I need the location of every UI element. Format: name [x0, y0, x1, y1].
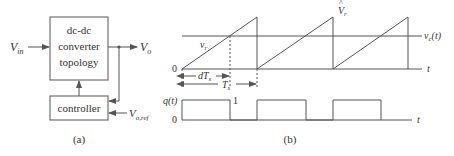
converter-label-line2: converter — [58, 40, 100, 52]
panel-a-block-diagram: dc-dc converter topology controller Vin … — [10, 17, 151, 146]
controller-label: controller — [58, 102, 101, 114]
switch-pulse-train — [182, 100, 381, 120]
converter-control-figure: dc-dc converter topology controller Vin … — [0, 0, 454, 156]
control-voltage-label: vc(t) — [424, 30, 442, 43]
caption-b: (b) — [284, 133, 297, 146]
switch-time-label: t — [417, 114, 420, 125]
time-axis-label: t — [427, 63, 430, 74]
duty-interval-label: dTs — [198, 70, 212, 83]
period-interval-label: Ts — [222, 79, 231, 92]
switch-high-value: 1 — [233, 95, 238, 106]
converter-label-line3: topology — [59, 56, 99, 68]
panel-b-waveforms: t 0 vc(t) vr Vr ^ dTs Ts t q(t) 1 0 (b) — [163, 0, 442, 146]
switch-low-value: 0 — [172, 114, 177, 125]
output-voltage-label: Vo — [140, 40, 151, 56]
switch-signal-label: q(t) — [163, 95, 178, 107]
caption-a: (a) — [73, 133, 86, 146]
peak-hat-accent: ^ — [339, 0, 343, 8]
converter-label-line1: dc-dc — [67, 24, 92, 36]
origin-label: 0 — [172, 63, 177, 74]
input-voltage-label: Vin — [10, 40, 24, 56]
sawtooth-ramp — [182, 17, 408, 69]
ramp-label: vr — [200, 39, 207, 52]
reference-voltage-label: Vo,ref — [129, 107, 150, 122]
feedback-arrow — [109, 47, 119, 101]
figure-canvas: dc-dc converter topology controller Vin … — [0, 0, 454, 156]
